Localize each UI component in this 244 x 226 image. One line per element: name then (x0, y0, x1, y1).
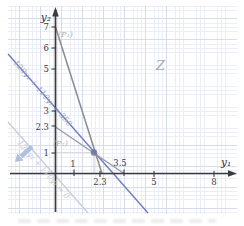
y-tick-3: 3 (44, 106, 49, 116)
x-tick-1: 1 (70, 159, 75, 169)
y-tick-1: 1 (44, 148, 49, 158)
x-axis-arrowhead-icon (228, 170, 237, 177)
y-axis-arrowhead-icon (52, 7, 59, 17)
y-tick-7: 7 (44, 22, 49, 32)
y-axis-label: y₂ (40, 11, 51, 23)
cropped-caption-smudge (18, 219, 216, 223)
x-tick-5: 5 (151, 177, 156, 187)
feasible-region-label: Z (155, 58, 166, 73)
point-p1-label: (P₁) (58, 30, 73, 39)
x-tick-2_3: 2.3 (93, 177, 107, 187)
x-axis-label: y₁ (220, 156, 231, 168)
y-tick-5: 5 (44, 64, 49, 74)
lp-figure: 7 6 5 3 2.3 1 1 2.3 3.5 5 8 y₂ y₁ 120y₁ … (0, 0, 244, 226)
point-p2-label: (P₂) (53, 139, 68, 148)
x-tick-3_5: 3.5 (113, 158, 127, 168)
x-tick-8: 8 (211, 177, 216, 187)
optimal-vertex-dot (91, 149, 97, 155)
y-tick-6: 6 (44, 43, 49, 53)
lp-plot-svg: 7 6 5 3 2.3 1 1 2.3 3.5 5 8 y₂ y₁ 120y₁ … (0, 0, 244, 226)
y-tick-2_3: 2.3 (35, 122, 49, 132)
